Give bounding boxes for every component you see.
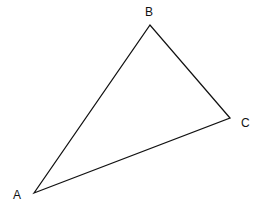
- vertex-label-a: A: [13, 188, 21, 202]
- triangle-abc: [34, 25, 230, 193]
- vertex-label-c: C: [241, 116, 250, 130]
- vertex-label-b: B: [145, 5, 153, 19]
- triangle-diagram: A B C: [0, 0, 266, 207]
